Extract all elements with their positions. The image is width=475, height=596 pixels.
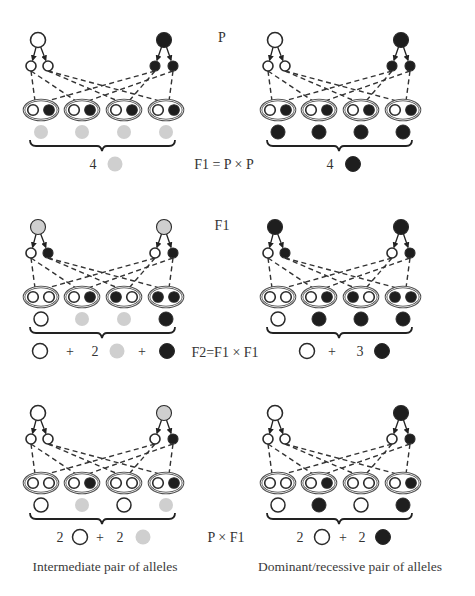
summary-count: 3 [357, 344, 364, 359]
zygote-allele-black-icon [322, 292, 333, 303]
cross-label-f2-equals-f1-x-f1: F2=F1 × F1 [191, 345, 258, 360]
gamete-circle-black-icon [168, 434, 178, 444]
phenotype-black-circle-icon [354, 125, 368, 139]
zygote-allele-white-icon [390, 478, 401, 489]
zygote-ellipse [107, 100, 141, 120]
summary-count: 2 [359, 530, 366, 545]
zygote-allele-white-icon [364, 478, 375, 489]
parent-to-gamete-arrow [166, 420, 171, 433]
parent-circle-grey-icon [157, 406, 172, 421]
zygote-allele-white-icon [390, 105, 401, 116]
zygote-allele-white-icon [348, 478, 359, 489]
zygote-ellipse [302, 287, 336, 307]
zygote-ellipse [302, 100, 336, 120]
zygote-ellipse [149, 287, 183, 307]
summary-count: 4 [327, 157, 334, 172]
zygote-allele-black-icon [348, 292, 359, 303]
zygote-ellipse [24, 100, 58, 120]
gamete-circle-black-icon [405, 61, 415, 71]
grouping-brace [30, 140, 175, 151]
gamete-circle-black-icon [43, 248, 53, 258]
parent-to-gamete-arrow [278, 234, 283, 247]
gamete-to-zygote-line [406, 71, 410, 101]
ratio-summary: 4 [327, 157, 361, 173]
parent-to-gamete-arrow [403, 47, 408, 60]
gamete-to-zygote-line [88, 71, 173, 101]
gamete-circle-white-icon [26, 61, 36, 71]
gamete-circle-white-icon [263, 248, 273, 258]
zygote-allele-black-icon [322, 105, 333, 116]
zygote-allele-black-icon [364, 105, 375, 116]
parent-circle-white-icon [31, 406, 46, 421]
zygote-allele-white-icon [281, 478, 292, 489]
summary-black-circle-icon [160, 344, 175, 359]
parent-circle-black-icon [394, 220, 409, 235]
ratio-summary: +2+ [33, 344, 175, 360]
zygote-ellipse [107, 287, 141, 307]
zygote-ellipse [344, 287, 378, 307]
parent-to-gamete-arrow [33, 420, 36, 433]
zygote-allele-black-icon [406, 105, 417, 116]
phenotype-grey-circle-icon [159, 498, 173, 512]
gamete-circle-white-icon [280, 434, 290, 444]
summary-black-circle-icon [375, 344, 390, 359]
parent-to-gamete-arrow [270, 234, 273, 247]
zygote-allele-black-icon [169, 478, 180, 489]
phenotype-grey-circle-icon [159, 125, 173, 139]
gamete-circle-white-icon [150, 434, 160, 444]
gamete-circle-white-icon [43, 434, 53, 444]
zygote-ellipse [344, 473, 378, 493]
gamete-to-zygote-line [406, 444, 410, 474]
zygote-allele-white-icon [44, 292, 55, 303]
phenotype-black-circle-icon [312, 312, 326, 326]
zygote-allele-black-icon [281, 105, 292, 116]
gamete-to-zygote-line [268, 258, 313, 288]
gamete-circle-white-icon [26, 434, 36, 444]
grouping-brace [30, 327, 175, 338]
grouping-brace [267, 327, 412, 338]
zygote-allele-white-icon [127, 478, 138, 489]
parent-to-gamete-arrow [278, 420, 283, 433]
summary-plus-sign: + [339, 530, 347, 545]
zygote-allele-white-icon [265, 478, 276, 489]
zygote-allele-black-icon [44, 105, 55, 116]
panel-f1-cross-dominant: +3 [261, 220, 420, 360]
gamete-circle-black-icon [150, 61, 160, 71]
zygote-allele-black-icon [406, 292, 417, 303]
zygote-allele-black-icon [127, 105, 138, 116]
zygote-ellipse [107, 473, 141, 493]
summary-black-circle-icon [346, 157, 361, 172]
cross-label-p-x-f1: P × F1 [208, 530, 245, 545]
gamete-to-zygote-line [47, 71, 155, 101]
gamete-to-zygote-line [48, 71, 118, 101]
gamete-to-zygote-line [284, 258, 392, 288]
summary-count: 2 [117, 530, 124, 545]
zygote-allele-white-icon [111, 478, 122, 489]
summary-count: 2 [297, 530, 304, 545]
panel-backcross-intermediate: 2+2 [24, 406, 183, 546]
zygote-allele-black-icon [406, 478, 417, 489]
zygote-allele-black-icon [169, 105, 180, 116]
cross-label-f1-equals-p-x-p: F1 = P × P [194, 157, 254, 172]
summary-white-circle-icon [33, 344, 48, 359]
gamete-to-zygote-line [284, 71, 392, 101]
zygote-allele-black-icon [111, 292, 122, 303]
zygote-ellipse [24, 473, 58, 493]
gamete-to-zygote-line [48, 258, 118, 288]
phenotype-grey-circle-icon [117, 125, 131, 139]
parent-to-gamete-arrow [166, 47, 171, 60]
zygote-ellipse [65, 287, 99, 307]
zygote-allele-black-icon [85, 292, 96, 303]
summary-plus-sign: + [328, 344, 336, 359]
cross-panels: 44+2++32+22+2 [24, 33, 420, 546]
phenotype-white-circle-icon [117, 498, 131, 512]
panel-p-cross-intermediate: 4 [24, 33, 183, 173]
generation-label-f1: F1 [215, 218, 230, 233]
parent-circle-grey-icon [31, 220, 46, 235]
parent-to-gamete-arrow [278, 47, 283, 60]
diagram-canvas: P F1 F1 = P × P F2=F1 × F1 P × F1 Interm… [0, 0, 475, 596]
gamete-to-zygote-line [31, 71, 35, 101]
parent-to-gamete-arrow [41, 47, 46, 60]
phenotype-black-circle-icon [312, 125, 326, 139]
gamete-to-zygote-line [88, 444, 173, 474]
